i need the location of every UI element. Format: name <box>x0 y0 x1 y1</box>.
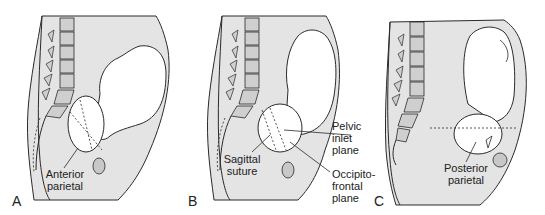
label-sagittal-suture: Sagittal suture <box>220 153 264 177</box>
panel-c-posterior-asynclitism: Posterior parietal C <box>370 0 545 215</box>
panel-letter-b: B <box>188 193 197 209</box>
pubic-symphysis <box>282 162 294 178</box>
pubic-symphysis <box>93 158 105 174</box>
fetal-head <box>454 114 502 154</box>
label-posterior-parietal: Posterior parietal <box>438 162 494 186</box>
panel-a-anterior-asynclitism: Anterior parietal A <box>0 0 180 215</box>
fetal-head <box>258 104 302 152</box>
panel-b-synclitism: Sagittal suture Pelvic inlet plane Occip… <box>180 0 370 215</box>
panel-letter-c: C <box>374 193 384 209</box>
panel-a-illustration <box>0 0 180 215</box>
label-anterior-parietal: Anterior parietal <box>40 168 90 192</box>
label-occipito-frontal-plane: Occipito- frontal plane <box>332 168 375 204</box>
label-pelvic-inlet-plane: Pelvic inlet plane <box>332 120 361 156</box>
panel-letter-a: A <box>12 193 21 209</box>
pubic-symphysis <box>493 153 507 167</box>
